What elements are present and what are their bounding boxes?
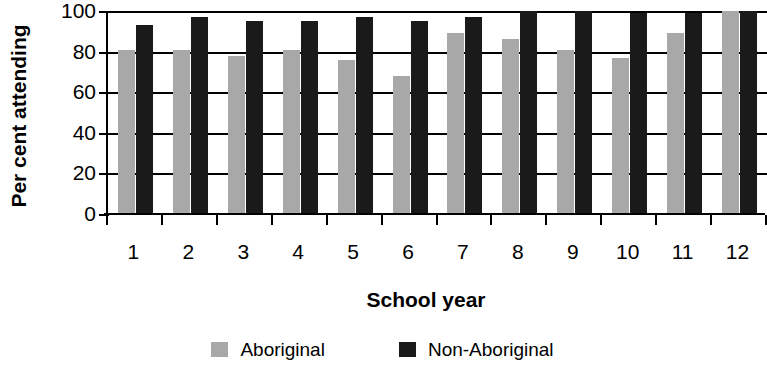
x-axis-title: School year [106, 288, 746, 312]
x-axis-tick-label: 7 [440, 240, 486, 264]
y-axis-tick-labels: 020406080100 [34, 0, 96, 230]
plot-inner [108, 11, 767, 214]
x-axis-tick-label: 2 [165, 240, 211, 264]
x-axis-tick-label: 12 [715, 240, 761, 264]
x-axis-tick [600, 215, 602, 225]
y-axis-tick [99, 133, 109, 135]
y-axis-tick-label: 100 [34, 0, 96, 21]
x-axis-tick [161, 215, 163, 225]
x-axis-tick-label: 6 [385, 240, 431, 264]
y-axis-tick-label: 80 [34, 41, 96, 62]
y-axis-tick [99, 173, 109, 175]
y-axis-tick-label: 40 [34, 122, 96, 143]
x-axis-tick [490, 215, 492, 225]
black-swatch [399, 342, 416, 357]
bar-aboriginal-year-10 [612, 58, 629, 214]
x-axis-tick-label: 11 [660, 240, 706, 264]
x-axis-tick-label: 9 [550, 240, 596, 264]
bar-non-aboriginal-year-2 [191, 17, 208, 214]
x-axis-tick [710, 215, 712, 225]
chart-legend: AboriginalNon-Aboriginal [0, 340, 765, 359]
x-axis-tick [106, 215, 108, 225]
y-axis-tick-label: 20 [34, 162, 96, 183]
legend-item: Aboriginal [211, 340, 325, 359]
y-axis-title: Per cent attending [7, 1, 31, 231]
bar-non-aboriginal-year-11 [685, 13, 702, 214]
x-axis-tick [545, 215, 547, 225]
gridline [108, 11, 767, 13]
bar-non-aboriginal-year-12 [740, 11, 757, 214]
bar-non-aboriginal-year-6 [411, 21, 428, 214]
bar-non-aboriginal-year-4 [301, 21, 318, 214]
bar-aboriginal-year-12 [722, 11, 739, 214]
bar-non-aboriginal-year-5 [356, 17, 373, 214]
bar-aboriginal-year-4 [283, 50, 300, 214]
bar-aboriginal-year-3 [228, 56, 245, 214]
bar-aboriginal-year-8 [502, 39, 519, 214]
y-axis-tick [99, 52, 109, 54]
bar-non-aboriginal-year-1 [136, 25, 153, 214]
x-axis-tick-label: 1 [110, 240, 156, 264]
plot-area [106, 11, 767, 214]
bar-aboriginal-year-5 [338, 60, 355, 214]
legend-item: Non-Aboriginal [399, 340, 554, 359]
bar-aboriginal-year-7 [447, 33, 464, 214]
bar-aboriginal-year-1 [118, 50, 135, 214]
bar-aboriginal-year-11 [667, 33, 684, 214]
x-axis-tick-label: 10 [605, 240, 651, 264]
bar-non-aboriginal-year-10 [630, 13, 647, 214]
x-axis-tick-label: 5 [330, 240, 376, 264]
bar-non-aboriginal-year-8 [520, 11, 537, 214]
legend-label: Aboriginal [240, 340, 325, 359]
bar-non-aboriginal-year-9 [575, 11, 592, 214]
bar-non-aboriginal-year-7 [465, 17, 482, 214]
x-axis-tick [381, 215, 383, 225]
gray-swatch [211, 342, 228, 357]
legend-label: Non-Aboriginal [428, 340, 554, 359]
x-axis-tick-label: 4 [275, 240, 321, 264]
x-axis-tick [216, 215, 218, 225]
x-axis-tick-label: 8 [495, 240, 541, 264]
x-axis-tick [436, 215, 438, 225]
bar-aboriginal-year-6 [393, 76, 410, 214]
y-axis-tick-label: 0 [34, 203, 96, 224]
bar-non-aboriginal-year-3 [246, 21, 263, 214]
x-axis-ticks [106, 215, 765, 225]
y-axis-tick-label: 60 [34, 81, 96, 102]
bar-aboriginal-year-9 [557, 50, 574, 214]
x-axis-tick [326, 215, 328, 225]
y-axis-tick [99, 11, 109, 13]
y-axis-tick [99, 92, 109, 94]
x-axis-tick-label: 3 [220, 240, 266, 264]
x-axis-tick [271, 215, 273, 225]
x-axis-tick [655, 215, 657, 225]
bar-aboriginal-year-2 [173, 50, 190, 214]
x-axis-tick-labels: 123456789101112 [106, 240, 765, 268]
